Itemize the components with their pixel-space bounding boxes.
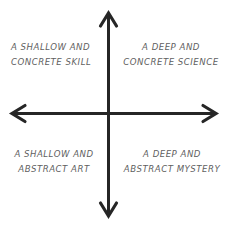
axes-group: [0, 0, 228, 227]
quadrant-label-bottom-left-line1: A SHALLOW AND: [6, 147, 102, 162]
quadrant-label-bottom-right-line2: ABSTRACT MYSTERY: [122, 162, 222, 177]
quadrant-label-bottom-right: A DEEP AND ABSTRACT MYSTERY: [122, 147, 222, 177]
quadrant-label-bottom-right-line1: A DEEP AND: [122, 147, 222, 162]
quadrant-label-top-left: A SHALLOW AND CONCRETE SKILL: [11, 40, 91, 70]
quadrant-label-top-left-line1: A SHALLOW AND: [11, 40, 91, 55]
quadrant-label-top-right-line2: CONCRETE SCIENCE: [122, 55, 220, 70]
quadrant-label-bottom-left-line2: ABSTRACT ART: [6, 162, 102, 177]
quadrant-label-bottom-left: A SHALLOW AND ABSTRACT ART: [6, 147, 102, 177]
quadrant-diagram-canvas: A SHALLOW AND CONCRETE SKILL A DEEP AND …: [0, 0, 228, 227]
quadrant-label-top-right: A DEEP AND CONCRETE SCIENCE: [122, 40, 220, 70]
quadrant-label-top-left-line2: CONCRETE SKILL: [11, 55, 91, 70]
quadrant-label-top-right-line1: A DEEP AND: [122, 40, 220, 55]
